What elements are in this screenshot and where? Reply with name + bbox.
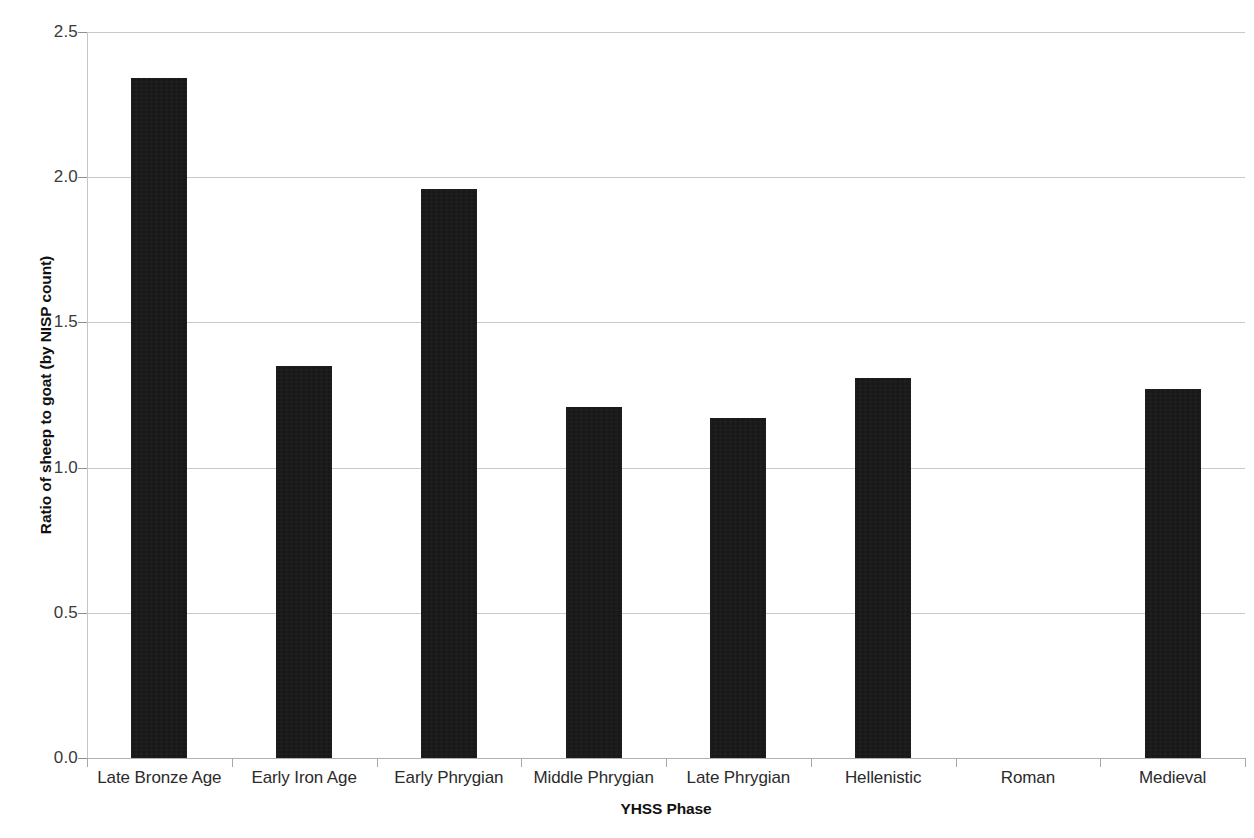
bar (131, 78, 187, 758)
y-axis-tick-label: 1.0 (34, 458, 78, 478)
gridline (87, 468, 1245, 469)
y-axis-tick-label: 0.5 (34, 603, 78, 623)
bar (710, 418, 766, 758)
bar (276, 366, 332, 758)
x-axis-tick-mark (521, 758, 522, 767)
x-axis-tick-label: Roman (956, 768, 1101, 788)
x-axis-tick-mark (666, 758, 667, 767)
x-axis-tick-label: Late Phrygian (666, 768, 811, 788)
x-axis-tick-label: Late Bronze Age (87, 768, 232, 788)
bar (1145, 389, 1201, 758)
bar (855, 378, 911, 758)
x-axis-title: YHSS Phase (87, 800, 1245, 818)
x-axis-tick-label: Early Phrygian (377, 768, 522, 788)
x-axis-tick-mark (1100, 758, 1101, 767)
gridline (87, 177, 1245, 178)
x-axis-tick-mark (232, 758, 233, 767)
bar (566, 407, 622, 758)
y-axis-tick-mark (78, 32, 87, 33)
gridline (87, 32, 1245, 33)
gridline (87, 613, 1245, 614)
y-axis-tick-label: 0.0 (34, 748, 78, 768)
y-axis-tick-label: 2.0 (34, 167, 78, 187)
x-axis-tick-mark (811, 758, 812, 767)
x-axis-tick-label: Early Iron Age (232, 768, 377, 788)
y-axis-tick-labels: 0.00.51.01.52.02.5 (0, 0, 78, 838)
y-axis-tick-mark (78, 468, 87, 469)
y-axis-tick-mark (78, 177, 87, 178)
y-axis-tick-mark (78, 758, 87, 759)
x-axis-tick-mark (87, 758, 88, 767)
plot-area (87, 32, 1245, 758)
gridline (87, 322, 1245, 323)
y-axis-tick-label: 1.5 (34, 312, 78, 332)
x-axis-tick-label: Medieval (1100, 768, 1245, 788)
x-axis-tick-label: Middle Phrygian (521, 768, 666, 788)
x-axis-tick-mark (377, 758, 378, 767)
bar-chart: Ratio of sheep to goat (by NISP count) 0… (0, 0, 1254, 838)
bar (421, 189, 477, 758)
x-axis-tick-mark (1245, 758, 1246, 767)
y-axis-tick-mark (78, 322, 87, 323)
x-axis-tick-mark (956, 758, 957, 767)
x-axis-tick-label: Hellenistic (811, 768, 956, 788)
y-axis-tick-label: 2.5 (34, 22, 78, 42)
y-axis-tick-mark (78, 613, 87, 614)
